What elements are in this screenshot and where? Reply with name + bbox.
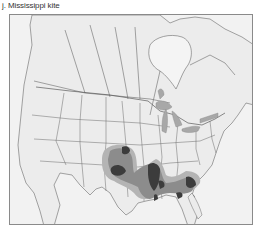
north-america-map xyxy=(10,15,253,225)
figure-title: j. Mississippi kite xyxy=(2,1,60,10)
range-map xyxy=(9,14,253,225)
